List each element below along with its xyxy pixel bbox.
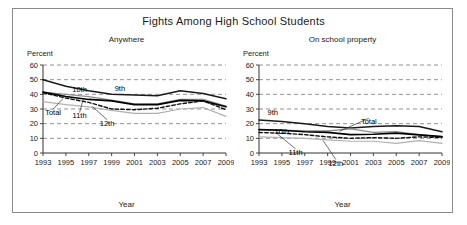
figure-frame: Fights Among High School Students Anywhe… — [12, 8, 453, 213]
svg-text:1997: 1997 — [80, 158, 97, 167]
line-chart-school-property: 0102030405060199319951997199920012003200… — [235, 59, 450, 183]
x-axis-label-right: Year — [235, 200, 450, 209]
svg-text:40: 40 — [30, 90, 38, 99]
svg-text:10: 10 — [246, 134, 254, 143]
series-label-9th: 9th — [115, 84, 125, 93]
svg-text:40: 40 — [246, 90, 254, 99]
svg-text:2009: 2009 — [434, 158, 450, 167]
svg-text:2007: 2007 — [195, 158, 212, 167]
figure-title: Fights Among High School Students — [13, 15, 454, 27]
plot-area-right: 0102030405060199319951997199920012003200… — [235, 59, 450, 183]
x-axis-label-left: Year — [19, 200, 234, 209]
series-line-9th — [43, 80, 226, 99]
series-label-12th: 12th — [100, 119, 115, 128]
chart-panel-school-property: On school property Percent 0102030405060… — [235, 35, 450, 211]
svg-text:10: 10 — [30, 134, 38, 143]
svg-text:2003: 2003 — [365, 158, 382, 167]
svg-text:50: 50 — [30, 75, 38, 84]
y-axis-label-right: Percent — [243, 49, 269, 58]
panel-title-school-property: On school property — [235, 35, 450, 44]
svg-text:2003: 2003 — [149, 158, 166, 167]
svg-text:50: 50 — [246, 75, 254, 84]
series-label-total: Total — [45, 108, 61, 117]
series-label-10th: 10th — [72, 85, 87, 94]
svg-text:2007: 2007 — [411, 158, 428, 167]
plot-area-left: 0102030405060199319951997199920012003200… — [19, 59, 234, 183]
svg-text:2009: 2009 — [218, 158, 234, 167]
svg-text:2001: 2001 — [342, 158, 359, 167]
panel-title-anywhere: Anywhere — [19, 35, 234, 44]
svg-text:30: 30 — [30, 105, 38, 114]
chart-panel-anywhere: Anywhere Percent 01020304050601993199519… — [19, 35, 234, 211]
svg-text:1997: 1997 — [296, 158, 313, 167]
svg-text:20: 20 — [30, 119, 38, 128]
svg-text:60: 60 — [246, 61, 254, 70]
series-label-total: Total — [361, 117, 377, 126]
svg-text:30: 30 — [246, 105, 254, 114]
series-label-11th: 11th — [289, 148, 303, 157]
series-label-10th: 10th — [275, 127, 290, 136]
svg-text:1995: 1995 — [58, 158, 75, 167]
series-label-12th: 12th — [329, 159, 344, 168]
svg-text:0: 0 — [34, 149, 38, 158]
series-label-11th: 11th — [73, 111, 87, 120]
svg-text:2005: 2005 — [172, 158, 189, 167]
series-label-9th: 9th — [268, 108, 278, 117]
svg-text:1999: 1999 — [103, 158, 120, 167]
svg-text:60: 60 — [30, 61, 38, 70]
svg-text:2001: 2001 — [126, 158, 143, 167]
svg-text:1995: 1995 — [274, 158, 291, 167]
svg-text:2005: 2005 — [388, 158, 405, 167]
y-axis-label-left: Percent — [27, 49, 53, 58]
svg-text:1993: 1993 — [35, 158, 52, 167]
svg-text:20: 20 — [246, 119, 254, 128]
svg-text:0: 0 — [250, 149, 254, 158]
svg-text:1993: 1993 — [251, 158, 268, 167]
line-chart-anywhere: 0102030405060199319951997199920012003200… — [19, 59, 234, 183]
